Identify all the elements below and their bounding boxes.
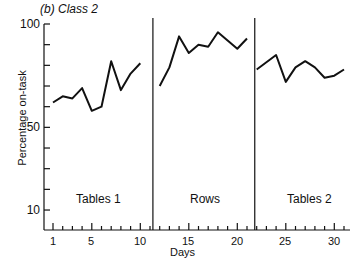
data-lines xyxy=(53,32,344,111)
series-line xyxy=(53,61,140,111)
series-line xyxy=(257,55,344,82)
plot-area xyxy=(0,0,362,264)
axes xyxy=(44,18,350,230)
series-line xyxy=(160,32,247,86)
